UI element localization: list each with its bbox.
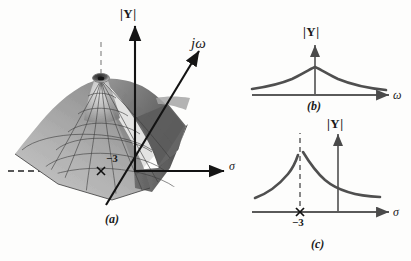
panel-c-caption: (c) [311,238,324,250]
panel-b-caption: (b) [307,100,321,112]
panel-b-magnitude-curve [252,67,386,90]
surface-mesh [15,78,190,200]
panel-a-sigma-axis-label: σ [229,160,235,172]
figure-root: |Y| jω σ −3 (a) |Y| ω (b) |Y| σ −3 (c) [0,0,411,261]
panel-c-graphic [252,133,389,216]
pole-cylinder-top [93,73,110,82]
panel-b-omega-axis-label: ω [393,89,401,101]
panel-c-left-branch-curve [255,155,298,198]
panel-b-magnitude-axis-label: |Y| [303,25,320,38]
panel-a-pole-tick-label: −3 [106,153,118,164]
panel-b-graphic [252,45,389,95]
panel-c-right-branch-curve [303,152,380,197]
panel-c-magnitude-axis-label: |Y| [327,117,344,130]
panel-a-magnitude-axis-label: |Y| [120,7,137,20]
panel-c-sigma-axis-label: σ [393,206,399,218]
panel-a-caption: (a) [105,213,119,225]
panel-c-pole-tick-label: −3 [292,217,304,228]
panel-a-jomega-axis-label: jω [191,36,206,51]
